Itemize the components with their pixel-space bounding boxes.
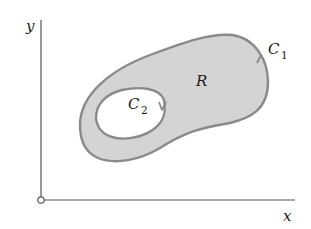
c2-label-subscript: 2 — [141, 104, 148, 116]
region-label: R — [195, 72, 207, 90]
c2-label: C — [128, 95, 140, 113]
x-axis-label: x — [283, 207, 292, 225]
c1-label-subscript: 1 — [281, 49, 288, 61]
y-axis-label: y — [25, 17, 35, 35]
region-r — [80, 35, 268, 161]
c1-label: C — [268, 40, 280, 58]
green-theorem-region-diagram: y x R C 1 C 2 — [0, 0, 311, 229]
origin-marker — [38, 197, 44, 203]
